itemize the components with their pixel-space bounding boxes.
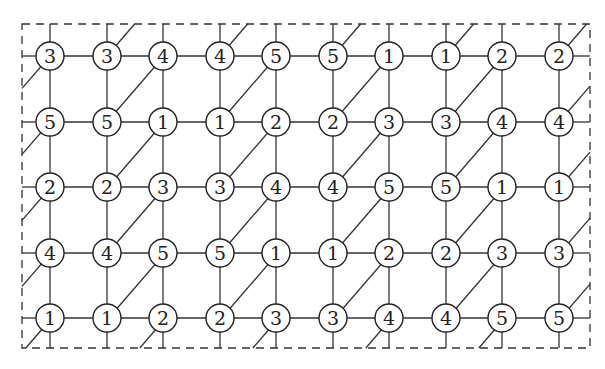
graph-node: 3 bbox=[545, 239, 573, 267]
node-label: 5 bbox=[383, 176, 395, 198]
graph-node: 1 bbox=[262, 239, 290, 267]
node-label: 1 bbox=[383, 45, 395, 67]
graph-node: 1 bbox=[488, 173, 516, 201]
node-label: 2 bbox=[440, 242, 452, 264]
node-label: 3 bbox=[214, 176, 226, 198]
graph-node: 2 bbox=[488, 42, 516, 70]
graph-node: 5 bbox=[206, 239, 234, 267]
graph-node: 3 bbox=[488, 239, 516, 267]
node-label: 3 bbox=[270, 307, 282, 329]
graph-node: 4 bbox=[262, 173, 290, 201]
node-label: 2 bbox=[383, 242, 395, 264]
graph-node: 2 bbox=[262, 108, 290, 136]
node-label: 2 bbox=[496, 45, 508, 67]
node-label: 1 bbox=[157, 111, 169, 133]
graph-node: 3 bbox=[93, 42, 121, 70]
node-label: 2 bbox=[553, 45, 565, 67]
graph-node: 2 bbox=[375, 239, 403, 267]
node-label: 4 bbox=[157, 45, 169, 67]
graph-node: 3 bbox=[432, 108, 460, 136]
graph-node: 3 bbox=[206, 173, 234, 201]
node-label: 4 bbox=[383, 307, 395, 329]
graph-node: 2 bbox=[319, 108, 347, 136]
node-label: 1 bbox=[327, 242, 339, 264]
graph-node: 1 bbox=[545, 173, 573, 201]
node-label: 5 bbox=[327, 45, 339, 67]
node-label: 5 bbox=[270, 45, 282, 67]
node-label: 5 bbox=[214, 242, 226, 264]
node-label: 3 bbox=[440, 111, 452, 133]
graph-node: 2 bbox=[36, 173, 64, 201]
graph-node: 3 bbox=[36, 42, 64, 70]
node-label: 1 bbox=[214, 111, 226, 133]
node-label: 5 bbox=[101, 111, 113, 133]
graph-node: 3 bbox=[149, 173, 177, 201]
graph-node: 4 bbox=[545, 108, 573, 136]
node-label: 5 bbox=[157, 242, 169, 264]
graph-node: 2 bbox=[149, 304, 177, 332]
node-label: 3 bbox=[157, 176, 169, 198]
node-label: 4 bbox=[101, 242, 113, 264]
graph-node: 1 bbox=[432, 42, 460, 70]
node-label: 2 bbox=[101, 176, 113, 198]
node-label: 4 bbox=[440, 307, 452, 329]
graph-node: 5 bbox=[93, 108, 121, 136]
node-label: 3 bbox=[553, 242, 565, 264]
node-label: 1 bbox=[440, 45, 452, 67]
graph-node: 5 bbox=[149, 239, 177, 267]
graph-node: 5 bbox=[262, 42, 290, 70]
node-label: 1 bbox=[553, 176, 565, 198]
graph-node: 5 bbox=[375, 173, 403, 201]
node-label: 2 bbox=[327, 111, 339, 133]
node-label: 4 bbox=[44, 242, 56, 264]
graph-node: 4 bbox=[319, 173, 347, 201]
graph-node: 5 bbox=[319, 42, 347, 70]
node-label: 4 bbox=[327, 176, 339, 198]
graph-node: 4 bbox=[36, 239, 64, 267]
node-label: 4 bbox=[496, 111, 508, 133]
graph-node: 2 bbox=[206, 304, 234, 332]
node-label: 1 bbox=[496, 176, 508, 198]
graph-node: 5 bbox=[488, 304, 516, 332]
graph-node: 2 bbox=[93, 173, 121, 201]
graph-node: 4 bbox=[488, 108, 516, 136]
graph-node: 3 bbox=[319, 304, 347, 332]
node-label: 5 bbox=[553, 307, 565, 329]
graph-node: 5 bbox=[432, 173, 460, 201]
graph-node: 4 bbox=[375, 304, 403, 332]
node-label: 2 bbox=[270, 111, 282, 133]
graph-node: 1 bbox=[319, 239, 347, 267]
node-label: 2 bbox=[214, 307, 226, 329]
node-label: 3 bbox=[383, 111, 395, 133]
graph-node: 3 bbox=[262, 304, 290, 332]
grid-diagram: 3344551122551122334422334455114455112233… bbox=[0, 0, 605, 369]
graph-node: 3 bbox=[375, 108, 403, 136]
node-label: 1 bbox=[101, 307, 113, 329]
node-label: 3 bbox=[44, 45, 56, 67]
graph-node: 1 bbox=[36, 304, 64, 332]
node-label: 4 bbox=[270, 176, 282, 198]
node-label: 4 bbox=[553, 111, 565, 133]
node-label: 5 bbox=[44, 111, 56, 133]
graph-node: 4 bbox=[93, 239, 121, 267]
graph-node: 1 bbox=[375, 42, 403, 70]
graph-node: 1 bbox=[93, 304, 121, 332]
graph-node: 4 bbox=[206, 42, 234, 70]
graph-node: 4 bbox=[149, 42, 177, 70]
node-label: 1 bbox=[270, 242, 282, 264]
graph-node: 1 bbox=[149, 108, 177, 136]
node-label: 5 bbox=[440, 176, 452, 198]
graph-node: 2 bbox=[432, 239, 460, 267]
graph-node: 2 bbox=[545, 42, 573, 70]
node-label: 3 bbox=[327, 307, 339, 329]
node-label: 3 bbox=[101, 45, 113, 67]
node-label: 1 bbox=[44, 307, 56, 329]
node-label: 2 bbox=[157, 307, 169, 329]
graph-node: 5 bbox=[36, 108, 64, 136]
graph-node: 1 bbox=[206, 108, 234, 136]
node-label: 2 bbox=[44, 176, 56, 198]
node-label: 3 bbox=[496, 242, 508, 264]
graph-node: 5 bbox=[545, 304, 573, 332]
graph-node: 4 bbox=[432, 304, 460, 332]
node-label: 5 bbox=[496, 307, 508, 329]
